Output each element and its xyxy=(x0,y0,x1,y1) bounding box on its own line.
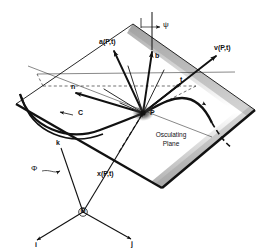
i-axis xyxy=(37,212,83,240)
label-binormal: b xyxy=(155,52,159,59)
label-phi: Φ xyxy=(31,165,37,173)
label-origin: O xyxy=(81,208,86,215)
label-position-vector: x(P,t) xyxy=(97,170,114,177)
k-axis xyxy=(61,148,83,212)
label-basis-i: i xyxy=(35,241,37,248)
osculating-line-2: Plane xyxy=(163,140,180,147)
figure-canvas xyxy=(0,0,270,250)
phi-leader xyxy=(42,171,60,172)
label-psi: ψ xyxy=(163,21,169,29)
osculating-plane-figure: a(P,t) b v(P,t) t n C P ψ Φ Osculating P… xyxy=(0,0,270,250)
label-curve-c: C xyxy=(78,109,83,116)
label-osculating-plane: Osculating Plane xyxy=(140,131,202,149)
osculating-line-1: Osculating xyxy=(156,131,187,138)
label-basis-k: k xyxy=(56,139,60,146)
label-acceleration: a(P,t) xyxy=(99,38,116,45)
label-tangent: t xyxy=(180,76,182,83)
j-axis xyxy=(83,212,131,239)
label-basis-j: j xyxy=(131,240,133,247)
label-point-p: P xyxy=(150,109,155,116)
label-normal: n xyxy=(71,83,75,90)
label-velocity: v(P,t) xyxy=(214,44,231,51)
